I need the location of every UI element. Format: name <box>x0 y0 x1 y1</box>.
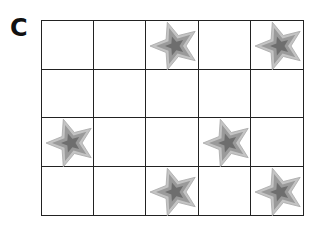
grid-cell <box>42 167 94 216</box>
grid-cell <box>146 118 198 167</box>
grid-cell <box>199 118 251 167</box>
grid-cell <box>251 70 303 119</box>
grid-cell <box>42 118 94 167</box>
grid-cell <box>251 167 303 216</box>
star-grid <box>41 20 304 216</box>
grid-cell <box>42 70 94 119</box>
star-icon <box>44 118 94 168</box>
grid-cell <box>251 118 303 167</box>
grid-cell <box>199 21 251 70</box>
grid-cell <box>146 167 198 216</box>
grid-cell <box>146 21 198 70</box>
grid-cell <box>94 167 146 216</box>
star-icon <box>253 167 303 217</box>
grid-cell <box>94 21 146 70</box>
star-icon <box>148 21 198 71</box>
grid-cell <box>94 118 146 167</box>
grid-cell <box>199 167 251 216</box>
grid-cell <box>251 21 303 70</box>
grid-cell <box>146 70 198 119</box>
star-icon <box>148 167 198 217</box>
grid-cell <box>42 21 94 70</box>
grid-cell <box>199 70 251 119</box>
figure-label: C <box>10 14 28 42</box>
grid-cell <box>94 70 146 119</box>
star-icon <box>201 118 251 168</box>
star-icon <box>253 21 303 71</box>
